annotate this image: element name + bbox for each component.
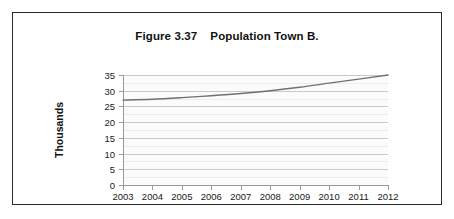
x-axis-tick-label: 2012	[377, 191, 398, 202]
y-axis-tick-label: 35	[104, 70, 115, 81]
x-axis-tick	[359, 186, 360, 190]
x-axis-tick-label: 2011	[348, 191, 368, 202]
data-series-line	[123, 75, 389, 186]
y-axis-tick-label: 30	[104, 85, 115, 96]
y-axis-tick-label: 15	[104, 132, 115, 143]
x-axis-tick	[182, 186, 183, 190]
y-axis-tick-label: 0	[110, 180, 115, 191]
y-axis-tick-label: 5	[110, 164, 115, 175]
y-axis-tick-label: 25	[104, 101, 115, 112]
x-axis-tick-label: 2007	[230, 191, 251, 202]
x-axis-tick-label: 2005	[171, 191, 192, 202]
figure-frame: Figure 3.37 Population Town B. 051015202…	[12, 12, 442, 205]
x-axis-tick-label: 2010	[319, 191, 340, 202]
x-axis-tick	[211, 186, 212, 190]
x-axis-tick	[123, 186, 124, 190]
y-axis-tick-label: 20	[104, 117, 115, 128]
x-axis-tick-label: 2009	[289, 191, 310, 202]
x-axis-tick-label: 2003	[112, 191, 133, 202]
x-axis-tick-label: 2006	[201, 191, 222, 202]
x-axis-tick	[329, 186, 330, 190]
line-chart: 05101520253035 2003200420052006200720082…	[111, 63, 401, 198]
x-axis-tick	[152, 186, 153, 190]
x-axis-tick	[300, 186, 301, 190]
x-axis-tick-label: 2008	[260, 191, 281, 202]
figure-title: Figure 3.37 Population Town B.	[13, 30, 441, 42]
x-axis-tick	[241, 186, 242, 190]
y-axis-title: Thousands	[63, 0, 75, 75]
x-axis-tick	[388, 186, 389, 190]
y-axis-tick-label: 10	[104, 148, 115, 159]
x-axis-tick-label: 2004	[142, 191, 163, 202]
x-axis-tick	[270, 186, 271, 190]
